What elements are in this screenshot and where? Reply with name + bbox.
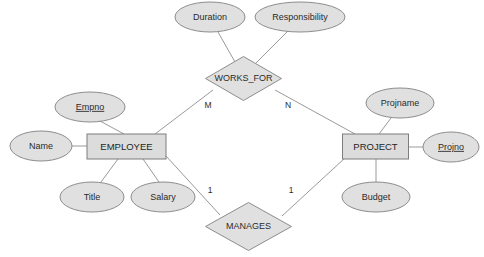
cardinality-labels-group: MN11 <box>204 100 293 195</box>
connection-line <box>256 31 288 63</box>
connection-line <box>379 118 391 134</box>
attribute-projno[interactable]: Projno <box>423 132 479 162</box>
attribute-salary[interactable]: Salary <box>131 182 195 212</box>
relationship-works_for[interactable]: WORKS_FOR <box>206 57 282 101</box>
entity-label: EMPLOYEE <box>100 141 152 152</box>
connection-line <box>218 32 235 62</box>
attribute-name[interactable]: Name <box>10 131 72 161</box>
er-diagram-svg: EMPLOYEEPROJECTWORKS_FORMANAGESDurationR… <box>0 0 484 257</box>
shapes-group: EMPLOYEEPROJECTWORKS_FORMANAGESDurationR… <box>10 2 479 251</box>
entity-project[interactable]: PROJECT <box>343 134 409 159</box>
connection-line <box>143 159 159 182</box>
entity-employee[interactable]: EMPLOYEE <box>87 134 166 159</box>
attribute-label: Budget <box>362 192 391 202</box>
attribute-budget[interactable]: Budget <box>342 182 410 212</box>
attribute-label: Projname <box>381 98 420 108</box>
attribute-key-label: Empno <box>76 102 105 112</box>
cardinality-label-manages_employee: 1 <box>208 185 213 195</box>
attribute-empno[interactable]: Empno <box>55 92 125 122</box>
connection-line <box>275 90 355 134</box>
attribute-title[interactable]: Title <box>60 182 124 212</box>
cardinality-label-works_for_project: N <box>285 100 291 110</box>
attribute-label: Title <box>84 192 101 202</box>
cardinality-label-works_for_employee: M <box>204 100 211 110</box>
connection-line <box>155 90 213 134</box>
attribute-label: Responsibility <box>272 12 328 22</box>
attribute-duration[interactable]: Duration <box>175 2 245 32</box>
relationship-manages[interactable]: MANAGES <box>206 203 292 251</box>
relationship-label: MANAGES <box>226 221 271 231</box>
attribute-key-label: Projno <box>438 142 464 152</box>
attribute-projname[interactable]: Projname <box>366 88 434 118</box>
relationship-label: WORKS_FOR <box>214 73 273 83</box>
cardinality-label-manages_project: 1 <box>289 185 294 195</box>
attribute-label: Name <box>29 141 53 151</box>
connection-line <box>101 159 118 182</box>
entity-label: PROJECT <box>353 141 398 152</box>
attribute-label: Salary <box>150 192 176 202</box>
er-diagram-canvas: EMPLOYEEPROJECTWORKS_FORMANAGESDurationR… <box>0 0 484 257</box>
attribute-responsibility[interactable]: Responsibility <box>255 2 345 32</box>
connection-line <box>100 121 124 134</box>
attribute-label: Duration <box>193 12 227 22</box>
